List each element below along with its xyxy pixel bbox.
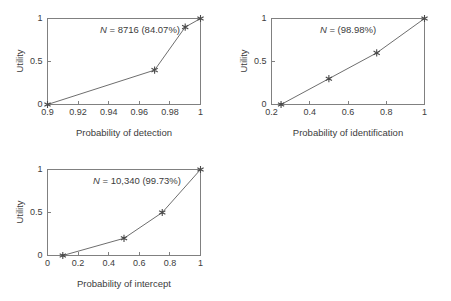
x-axis-title-intercept: Probability of intercept bbox=[77, 278, 171, 289]
y-tick-label: 0 bbox=[261, 99, 266, 109]
chart-svg-intercept: 00.20.40.60.81 00.51 N = 10,340 (99.73%)… bbox=[0, 150, 230, 301]
y-tick-label: 0.5 bbox=[30, 207, 43, 217]
chart-panel-identification: 0.20.40.60.81 00.51 N = (98.98%) Probabi… bbox=[226, 0, 451, 150]
data-point-marker bbox=[121, 235, 127, 242]
y-tick-label: 0.5 bbox=[30, 56, 43, 66]
y-axis-title-intercept: Utility bbox=[14, 200, 25, 223]
x-tick-label: 0.9 bbox=[41, 107, 54, 117]
y-tick-labels: 00.51 bbox=[254, 13, 267, 109]
y-tick-label: 1 bbox=[261, 13, 266, 23]
y-tick-label: 0 bbox=[37, 250, 42, 260]
x-tick-label: 0.8 bbox=[164, 258, 177, 268]
x-tick-label: 0.6 bbox=[342, 107, 355, 117]
x-tick-label: 0.4 bbox=[303, 107, 316, 117]
x-tick-marks bbox=[48, 101, 201, 105]
x-axis-title-detection: Probability of detection bbox=[76, 127, 172, 138]
y-tick-label: 1 bbox=[37, 13, 42, 23]
x-tick-label: 0.8 bbox=[380, 107, 393, 117]
chart-panel-detection: 0.90.920.940.960.981 00.51 N = 8716 (84.… bbox=[0, 0, 226, 150]
x-tick-label: 0.2 bbox=[72, 258, 85, 268]
x-tick-label: 0.94 bbox=[100, 107, 118, 117]
x-tick-label: 0.2 bbox=[265, 107, 278, 117]
x-tick-labels: 00.20.40.60.81 bbox=[45, 258, 203, 268]
chart-panel-intercept: 00.20.40.60.81 00.51 N = 10,340 (99.73%)… bbox=[0, 150, 230, 301]
x-tick-label: 0.98 bbox=[161, 107, 179, 117]
y-tick-labels: 00.51 bbox=[30, 13, 43, 109]
x-tick-label: 0.6 bbox=[133, 258, 146, 268]
data-point-marker bbox=[374, 49, 380, 56]
x-tick-label: 0.4 bbox=[102, 258, 115, 268]
x-axis-title-identification: Probability of identification bbox=[293, 127, 403, 138]
y-tick-marks bbox=[48, 19, 52, 105]
y-axis-title-identification: Utility bbox=[238, 49, 249, 72]
data-point-marker bbox=[326, 75, 332, 82]
chart-svg-identification: 0.20.40.60.81 00.51 N = (98.98%) Probabi… bbox=[226, 0, 451, 150]
annotation-detection: N = 8716 (84.07%) bbox=[100, 24, 180, 35]
annotation-identification: N = (98.98%) bbox=[320, 24, 376, 35]
x-tick-labels: 0.90.920.940.960.981 bbox=[41, 107, 203, 117]
x-tick-marks bbox=[272, 101, 425, 105]
y-tick-label: 0 bbox=[37, 99, 42, 109]
x-tick-label: 0 bbox=[45, 258, 50, 268]
x-tick-label: 1 bbox=[198, 107, 203, 117]
y-tick-labels: 00.51 bbox=[30, 164, 43, 260]
y-tick-label: 0.5 bbox=[254, 56, 267, 66]
x-tick-label: 0.96 bbox=[131, 107, 149, 117]
chart-svg-detection: 0.90.920.940.960.981 00.51 N = 8716 (84.… bbox=[0, 0, 226, 150]
figure-container: 0.90.920.940.960.981 00.51 N = 8716 (84.… bbox=[0, 0, 451, 301]
x-tick-labels: 0.20.40.60.81 bbox=[265, 107, 427, 117]
y-axis-title-detection: Utility bbox=[14, 49, 25, 72]
x-tick-label: 0.92 bbox=[69, 107, 87, 117]
x-tick-label: 1 bbox=[422, 107, 427, 117]
annotation-intercept: N = 10,340 (99.73%) bbox=[93, 175, 181, 186]
y-tick-label: 1 bbox=[37, 164, 42, 174]
y-tick-marks bbox=[48, 170, 52, 256]
y-tick-marks bbox=[272, 19, 276, 105]
x-tick-label: 1 bbox=[198, 258, 203, 268]
